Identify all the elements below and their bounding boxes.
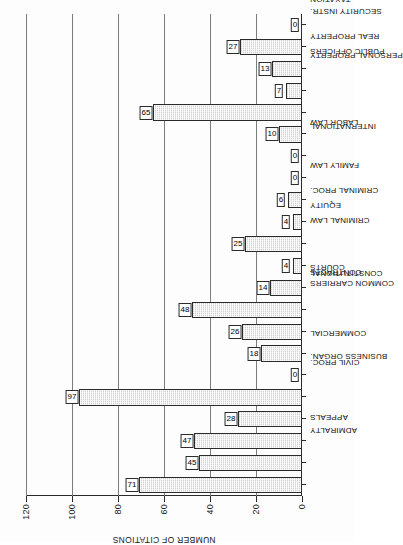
bar-item[interactable] bbox=[26, 236, 302, 252]
value-tick bbox=[256, 496, 257, 502]
bar-value-label: 14 bbox=[256, 281, 269, 295]
bar-item[interactable] bbox=[26, 192, 302, 208]
bar-value-label: 0 bbox=[291, 369, 299, 383]
bar[interactable] bbox=[270, 280, 302, 296]
bar-item[interactable] bbox=[26, 477, 302, 493]
bar[interactable] bbox=[153, 105, 303, 121]
bar[interactable] bbox=[286, 83, 302, 99]
value-tick-label: 0 bbox=[297, 504, 307, 530]
bar[interactable] bbox=[79, 389, 302, 405]
bar-item[interactable] bbox=[26, 39, 302, 55]
category-label: ADMIRALTY bbox=[310, 426, 357, 435]
bar-value-label: 48 bbox=[178, 303, 191, 317]
bar-item[interactable] bbox=[26, 324, 302, 340]
bar[interactable] bbox=[238, 411, 302, 427]
category-label: REAL PROPERTY bbox=[310, 31, 379, 40]
category-label: EQUITY bbox=[310, 201, 341, 210]
bar[interactable] bbox=[139, 477, 302, 493]
value-tick bbox=[210, 496, 211, 502]
category-label: TAXATION bbox=[310, 0, 350, 3]
bar-value-label: 47 bbox=[180, 434, 193, 448]
value-tick bbox=[164, 496, 165, 502]
bar[interactable] bbox=[245, 236, 303, 252]
bar-value-label: 26 bbox=[229, 325, 242, 339]
category-label: COURTS bbox=[310, 263, 345, 272]
bar-item[interactable] bbox=[26, 455, 302, 471]
category-label: COMMERCIAL bbox=[310, 329, 366, 338]
bar[interactable] bbox=[192, 302, 302, 318]
bar-value-label: 0 bbox=[291, 171, 299, 185]
bar-value-label: 45 bbox=[185, 456, 198, 470]
bar[interactable] bbox=[261, 346, 302, 362]
bar-item[interactable] bbox=[26, 126, 302, 142]
bar-item[interactable] bbox=[26, 105, 302, 121]
bar[interactable] bbox=[240, 39, 302, 55]
bar-value-label: 10 bbox=[266, 128, 279, 142]
category-label: CRIMINAL PROC. bbox=[310, 186, 378, 195]
category-label: CRIMINAL LAW bbox=[310, 216, 370, 225]
value-axis-title: NUMBER OF CITATIONS bbox=[112, 535, 215, 545]
bar-item[interactable] bbox=[26, 258, 302, 274]
category-label: SECURITY INSTR. bbox=[310, 7, 382, 16]
bar-value-label: 4 bbox=[282, 259, 290, 273]
value-tick-label: 20 bbox=[251, 504, 261, 530]
bar-value-label: 18 bbox=[247, 347, 260, 361]
bar[interactable] bbox=[288, 192, 302, 208]
bar[interactable] bbox=[242, 324, 302, 340]
plot-area: 020406080100120 714547289701826481442546… bbox=[26, 14, 302, 496]
bar-item[interactable] bbox=[26, 170, 302, 186]
bar-item[interactable] bbox=[26, 367, 302, 383]
bar-item[interactable] bbox=[26, 346, 302, 362]
bars-group: 714547289701826481442546001065713270 bbox=[26, 14, 302, 496]
bar[interactable] bbox=[293, 214, 302, 230]
value-tick bbox=[72, 496, 73, 502]
value-tick bbox=[118, 496, 119, 502]
value-tick bbox=[26, 496, 27, 502]
bar-value-label: 25 bbox=[231, 237, 244, 251]
bar-item[interactable] bbox=[26, 148, 302, 164]
value-tick-label: 40 bbox=[205, 504, 215, 530]
bar-value-label: 7 bbox=[275, 84, 283, 98]
bar-item[interactable] bbox=[26, 214, 302, 230]
bar-value-label: 65 bbox=[139, 106, 152, 120]
bar-value-label: 6 bbox=[277, 193, 285, 207]
bar-item[interactable] bbox=[26, 17, 302, 33]
bar-value-label: 13 bbox=[259, 62, 272, 76]
bar[interactable] bbox=[199, 455, 303, 471]
bar[interactable] bbox=[293, 258, 302, 274]
bar[interactable] bbox=[194, 433, 302, 449]
bar-value-label: 0 bbox=[291, 149, 299, 163]
bar-value-label: 71 bbox=[125, 478, 138, 492]
category-label: LABOR LAW bbox=[310, 118, 358, 127]
value-tick-label: 80 bbox=[113, 504, 123, 530]
value-tick bbox=[302, 496, 303, 502]
category-label: PUBLIC OFFICERS bbox=[310, 48, 385, 57]
bar-item[interactable] bbox=[26, 83, 302, 99]
category-label: COMMON CARRIERS bbox=[310, 280, 394, 289]
bar-value-label: 97 bbox=[65, 390, 78, 404]
bar[interactable] bbox=[279, 126, 302, 142]
bar[interactable] bbox=[272, 61, 302, 77]
category-label: CIVIL PROC. bbox=[310, 358, 359, 367]
bar-item[interactable] bbox=[26, 302, 302, 318]
bar-item[interactable] bbox=[26, 433, 302, 449]
bar-item[interactable] bbox=[26, 411, 302, 427]
bar-value-label: 0 bbox=[291, 18, 299, 32]
category-label: APPEALS bbox=[310, 413, 348, 422]
category-label: FAMILY LAW bbox=[310, 161, 359, 170]
value-tick-label: 100 bbox=[67, 504, 77, 530]
bar-value-label: 28 bbox=[224, 412, 237, 426]
value-tick-label: 120 bbox=[21, 504, 31, 530]
bar-value-label: 27 bbox=[226, 40, 239, 54]
bar-value-label: 4 bbox=[282, 215, 290, 229]
category-labels-group: ADMIRALTYAPPEALSBUSINESS ORGAN.CIVIL PRO… bbox=[306, 14, 352, 496]
value-tick-label: 60 bbox=[159, 504, 169, 530]
